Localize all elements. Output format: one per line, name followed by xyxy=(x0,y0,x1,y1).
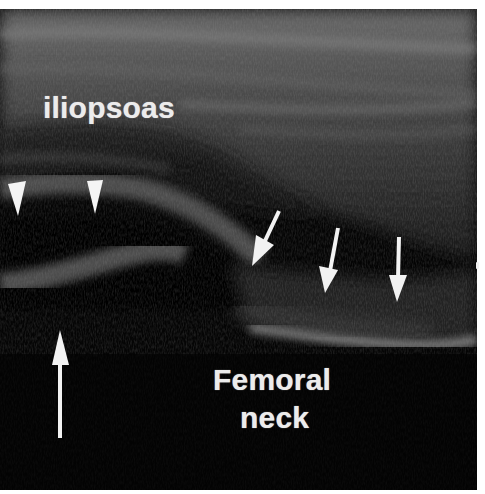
arrowhead-right-icon xyxy=(87,180,103,214)
arrowhead-left-icon xyxy=(8,181,26,216)
annotation-layer xyxy=(0,9,477,490)
arrow-1-icon xyxy=(252,211,279,266)
arrow-up-icon xyxy=(52,330,69,438)
neck-label: neck xyxy=(240,403,309,433)
iliopsoas-label: iliopsoas xyxy=(43,93,175,123)
femoral-label: Femoral xyxy=(213,365,331,395)
ultrasound-image: iliopsoas Femoral neck xyxy=(0,9,477,490)
arrow-2-icon xyxy=(319,228,338,293)
arrow-3-icon xyxy=(389,237,407,302)
edge-tick-mark xyxy=(476,262,479,269)
